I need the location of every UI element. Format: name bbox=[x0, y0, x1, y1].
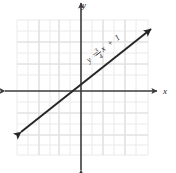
grid-major-lines bbox=[17, 20, 148, 155]
equation-intercept: 1 bbox=[112, 32, 122, 42]
x-axis-label: x bbox=[162, 86, 167, 96]
y-axis-label: y bbox=[81, 0, 86, 10]
svg-text:x + 1: x + 1 bbox=[97, 32, 121, 54]
graph-canvas: x y y = 3 4 x + 1 bbox=[0, 0, 176, 173]
linear-function-line bbox=[21, 29, 151, 132]
coordinate-graph-figure: x y y = 3 4 x + 1 bbox=[0, 0, 176, 173]
